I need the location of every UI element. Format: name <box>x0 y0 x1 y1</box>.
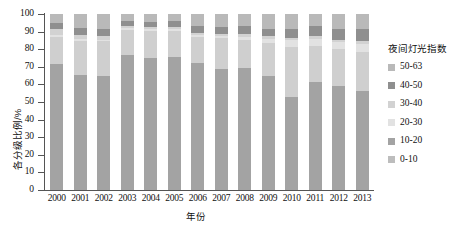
bar-segment <box>332 49 345 86</box>
bar-segment <box>168 31 181 57</box>
y-tick-label: 10 <box>0 167 34 177</box>
legend-item[interactable]: 10-20 <box>388 135 464 147</box>
bar-column <box>144 14 157 190</box>
bar-segment <box>50 29 63 35</box>
bar-segment <box>121 28 134 30</box>
bar-segment <box>74 28 87 35</box>
bar-column <box>238 14 251 190</box>
bar-column <box>356 14 369 190</box>
bar-segment <box>144 27 157 29</box>
plot-area <box>44 14 373 190</box>
bar-segment <box>262 43 275 76</box>
bar-segment <box>262 76 275 190</box>
bar-segment <box>50 14 63 23</box>
legend-item[interactable]: 0-10 <box>388 154 464 166</box>
bar-segment <box>97 40 110 42</box>
bar-segment <box>97 36 110 40</box>
bar-segment <box>74 75 87 190</box>
bar-segment <box>309 82 322 190</box>
bar-segment <box>191 35 204 37</box>
bar-segment <box>238 34 251 37</box>
legend: 夜间灯光指数 50-6340-5030-4020-3010-200-10 <box>388 41 464 172</box>
bar-column <box>309 14 322 190</box>
bar-segment <box>215 38 228 69</box>
bar-segment <box>285 40 298 47</box>
bar-column <box>74 14 87 190</box>
y-tick-label: 90 <box>0 27 34 37</box>
legend-swatch-icon <box>388 119 395 126</box>
bar-segment <box>332 42 345 49</box>
bar-segment <box>50 35 63 37</box>
legend-label: 40-50 <box>400 81 422 91</box>
bar-segment <box>309 26 322 36</box>
bar-segment <box>356 41 369 44</box>
legend-label: 20-30 <box>400 118 422 128</box>
bar-segment <box>121 30 134 56</box>
bar-segment <box>97 41 110 76</box>
y-tick-label: 50 <box>0 97 34 107</box>
bar-segment <box>97 14 110 29</box>
bar-segment <box>309 46 322 82</box>
bar-segment <box>168 57 181 190</box>
bar-segment <box>238 40 251 67</box>
legend-label: 50-63 <box>400 62 422 72</box>
bar-segment <box>238 14 251 26</box>
bar-column <box>168 14 181 190</box>
bar-segment <box>262 29 275 36</box>
y-tick-label: 80 <box>0 44 34 54</box>
bar-segment <box>50 23 63 29</box>
stacked-bar-chart: 各分级比例/% 0102030405060708090100 200020012… <box>0 0 465 233</box>
bar-segment <box>262 14 275 29</box>
legend-label: 10-20 <box>400 136 422 146</box>
legend-label: 0-10 <box>400 155 417 165</box>
bar-segment <box>238 26 251 34</box>
bar-segment <box>121 55 134 190</box>
bar-segment <box>356 29 369 41</box>
bar-segment <box>215 14 228 27</box>
legend-swatch-icon <box>388 64 395 71</box>
bar-segment <box>285 29 298 38</box>
y-tick-label: 40 <box>0 115 34 125</box>
bar-segment <box>144 58 157 190</box>
bar-column <box>215 14 228 190</box>
legend-item[interactable]: 50-63 <box>388 61 464 73</box>
bar-segment <box>144 31 157 58</box>
bar-segment <box>285 14 298 29</box>
y-tick-label: 60 <box>0 79 34 89</box>
bar-segment <box>74 41 87 74</box>
bar-segment <box>168 14 181 21</box>
bar-column <box>262 14 275 190</box>
bar-segment <box>215 34 228 36</box>
legend-label: 30-40 <box>400 99 422 109</box>
bar-column <box>121 14 134 190</box>
bar-segment <box>50 37 63 64</box>
legend-items: 50-6340-5030-4020-3010-200-10 <box>388 61 464 166</box>
bar-segment <box>191 14 204 26</box>
legend-swatch-icon <box>388 82 395 89</box>
bar-segment <box>285 38 298 41</box>
bar-segment <box>144 29 157 31</box>
legend-title: 夜间灯光指数 <box>388 41 464 55</box>
bar-segment <box>332 14 345 29</box>
x-axis-title: 年份 <box>186 209 206 223</box>
bar-segment <box>144 14 157 22</box>
y-tick-label: 0 <box>0 185 34 195</box>
bar-segment <box>144 22 157 27</box>
legend-item[interactable]: 20-30 <box>388 117 464 129</box>
y-tick-label: 70 <box>0 62 34 72</box>
bar-segment <box>262 36 275 39</box>
legend-item[interactable]: 30-40 <box>388 98 464 110</box>
bar-segment <box>238 68 251 190</box>
bar-segment <box>309 36 322 39</box>
bar-segment <box>262 39 275 43</box>
y-tick-mark <box>38 190 44 191</box>
bar-segment <box>168 27 181 29</box>
legend-item[interactable]: 40-50 <box>388 80 464 92</box>
bars-layer <box>44 14 373 190</box>
bar-column <box>332 14 345 190</box>
bar-segment <box>215 36 228 38</box>
y-tick-label: 100 <box>0 9 34 19</box>
bar-segment <box>97 29 110 36</box>
bar-segment <box>97 76 110 190</box>
bar-segment <box>191 63 204 190</box>
